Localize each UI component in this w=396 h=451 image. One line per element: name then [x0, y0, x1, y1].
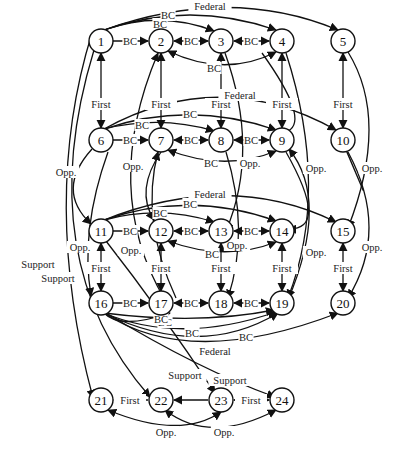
- edge-label: BC: [244, 298, 258, 309]
- node-label: 12: [155, 224, 168, 239]
- edge-label: First: [151, 99, 170, 110]
- edge-label: Opp.: [214, 427, 235, 438]
- node-label: 7: [158, 133, 165, 148]
- edge-label: Opp.: [240, 158, 261, 169]
- node-label: 16: [95, 296, 109, 311]
- node-label: 20: [337, 296, 350, 311]
- edge-arrow: [73, 149, 92, 224]
- node-15: 15: [331, 219, 355, 243]
- edge-label: BC: [123, 135, 137, 146]
- edge-label: Opp.: [121, 245, 142, 256]
- edge-label: BC: [244, 226, 258, 237]
- node-20: 20: [331, 291, 355, 315]
- node-label: 23: [215, 393, 228, 408]
- node-1: 1: [89, 29, 113, 53]
- edge-label: First: [211, 263, 230, 274]
- node-label: 4: [279, 34, 286, 49]
- edge-label: BC: [183, 109, 197, 120]
- edge-label: BC: [161, 10, 175, 21]
- node-17: 17: [149, 291, 173, 315]
- node-11: 11: [89, 219, 113, 243]
- edge-label: BC: [123, 298, 137, 309]
- edge-arrow: [108, 410, 221, 426]
- node-9: 9: [270, 128, 294, 152]
- edge-label: BC: [244, 36, 258, 47]
- edge-label: First: [91, 263, 110, 274]
- edge-label: Federal: [199, 346, 231, 357]
- node-label: 22: [155, 393, 168, 408]
- edge-label: BC: [184, 298, 198, 309]
- edge-label: First: [241, 395, 260, 406]
- node-21: 21: [89, 388, 113, 412]
- node-6: 6: [89, 128, 113, 152]
- node-label: 17: [155, 296, 169, 311]
- edge-label: BC: [239, 332, 253, 343]
- node-label: 14: [276, 224, 290, 239]
- edge-label: BC: [123, 226, 137, 237]
- edge-label: Opp.: [227, 240, 248, 251]
- edge-label: BC: [123, 36, 137, 47]
- edge-label: Federal: [224, 90, 256, 101]
- edge-label: BC: [184, 135, 198, 146]
- edge-label: First: [272, 263, 291, 274]
- edge-arrow: [286, 53, 309, 298]
- edge-label: BC: [183, 199, 197, 210]
- node-label: 13: [215, 224, 228, 239]
- relationship-diagram: BCBCBCBCBCFederalBCFirstFirstFirstFirstF…: [0, 0, 396, 451]
- node-2: 2: [149, 29, 173, 53]
- edge-arrow: [104, 15, 276, 30]
- edge-label: Federal: [194, 1, 226, 12]
- edge-label: First: [333, 99, 352, 110]
- edge-arrow: [66, 33, 93, 398]
- node-18: 18: [209, 291, 233, 315]
- node-3: 3: [209, 29, 233, 53]
- edge-label: Opp.: [362, 242, 383, 253]
- edge-label: Opp.: [156, 427, 177, 438]
- edge-label: Opp.: [362, 163, 383, 174]
- node-label: 15: [337, 224, 350, 239]
- node-label: 6: [98, 133, 105, 148]
- node-label: 3: [218, 34, 225, 49]
- edge-label: BC: [153, 208, 167, 219]
- edge-label: Federal: [194, 189, 226, 200]
- node-19: 19: [270, 291, 294, 315]
- node-22: 22: [149, 388, 173, 412]
- edge-label: BC: [185, 328, 199, 339]
- edge-label: First: [91, 99, 110, 110]
- node-label: 18: [215, 296, 228, 311]
- node-16: 16: [89, 291, 113, 315]
- edge-label: First: [333, 263, 352, 274]
- edge-label: BC: [205, 249, 219, 260]
- edge-label: Opp.: [306, 163, 327, 174]
- edge-label: First: [272, 99, 291, 110]
- node-label: 19: [276, 296, 289, 311]
- edge-label: BC: [207, 63, 221, 74]
- edge-label: Support: [21, 259, 54, 270]
- node-label: 24: [276, 393, 290, 408]
- edge-label: Support: [168, 370, 201, 381]
- edge-arrow: [104, 310, 274, 318]
- node-label: 2: [158, 34, 165, 49]
- node-7: 7: [149, 128, 173, 152]
- edge-label: Opp.: [70, 242, 91, 253]
- edge-label: First: [151, 263, 170, 274]
- edge-label: Support: [213, 375, 246, 386]
- edge-label: Opp.: [306, 247, 327, 258]
- edge-label: BC: [204, 158, 218, 169]
- node-12: 12: [149, 219, 173, 243]
- edge-label: BC: [135, 120, 149, 131]
- node-label: 9: [279, 133, 286, 148]
- node-14: 14: [270, 219, 294, 243]
- node-13: 13: [209, 219, 233, 243]
- node-4: 4: [270, 29, 294, 53]
- node-label: 1: [98, 34, 105, 49]
- edge-label: BC: [244, 135, 258, 146]
- edge-label: Support: [41, 273, 74, 284]
- node-10: 10: [331, 128, 355, 152]
- node-label: 21: [95, 393, 108, 408]
- node-label: 11: [95, 224, 108, 239]
- edge-label: BC: [184, 36, 198, 47]
- edge-label: Opp.: [56, 167, 77, 178]
- node-5: 5: [331, 29, 355, 53]
- node-label: 10: [337, 133, 350, 148]
